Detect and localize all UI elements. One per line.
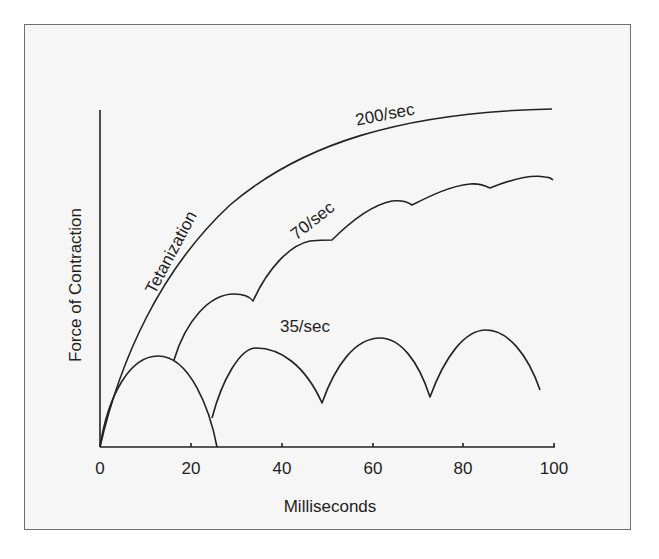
- x-tick-label: 20: [182, 459, 201, 478]
- x-tick-label: 100: [540, 459, 568, 478]
- series-200-sec-label: 200/sec: [354, 100, 417, 130]
- series-35-sec-curve: [100, 356, 217, 447]
- series-35-sec-curve-cont: [212, 330, 540, 418]
- x-tick-label: 0: [95, 459, 104, 478]
- series-70-sec-label: 70/sec: [287, 197, 339, 243]
- tetanization-label: Tetanization: [141, 208, 200, 297]
- x-tick-label: 60: [364, 459, 383, 478]
- x-tick-labels: 0 20 40 60 80 100: [95, 459, 568, 478]
- x-axis-label: Milliseconds: [284, 497, 377, 516]
- force-frequency-chart: 0 20 40 60 80 100 Milliseconds Force of …: [0, 0, 659, 559]
- series-35-sec-label: 35/sec: [280, 317, 331, 336]
- y-axis-label: Force of Contraction: [66, 208, 85, 362]
- x-tick-label: 40: [273, 459, 292, 478]
- x-tick-label: 80: [454, 459, 473, 478]
